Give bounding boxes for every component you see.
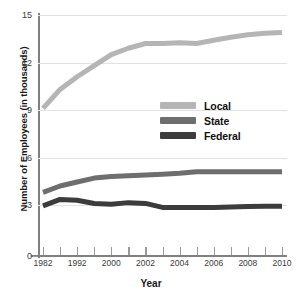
legend-label: Federal (204, 130, 241, 142)
y-axis-tick-label: 6 (0, 153, 32, 163)
series-line-federal (43, 199, 282, 207)
y-axis-tick-label: 15 (0, 10, 32, 20)
x-axis-title: Year (0, 278, 302, 289)
legend-item-local[interactable]: Local (160, 98, 241, 113)
legend-swatch-icon (160, 117, 196, 124)
y-axis-tick-label: 9 (0, 105, 32, 115)
y-axis-tick-label: 3 (0, 200, 32, 210)
legend: LocalStateFederal (160, 98, 241, 143)
y-axis-tick-label: 12 (0, 58, 32, 68)
legend-swatch-icon (160, 132, 196, 139)
legend-item-federal[interactable]: Federal (160, 128, 241, 143)
legend-label: Local (204, 100, 231, 112)
series-line-state (43, 172, 282, 193)
y-axis-tick-label: 0 (0, 251, 32, 261)
legend-label: State (204, 115, 229, 127)
y-axis-title: Number of Employees (in thousands) (16, 0, 32, 258)
legend-item-state[interactable]: State (160, 113, 241, 128)
line-chart: Number of Employees (in thousands) 03691… (0, 0, 302, 296)
legend-swatch-icon (160, 102, 196, 109)
